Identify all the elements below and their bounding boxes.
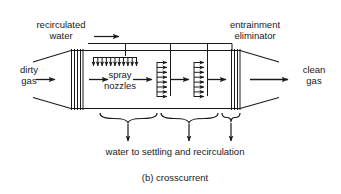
cross-spray-bank-2 <box>194 62 204 97</box>
label-dirty-gas: dirty gas <box>6 64 52 86</box>
brace-3 <box>222 113 240 122</box>
entrainment-eliminator-grid <box>232 49 241 110</box>
label-water-to-settling: water to settling and recirculation <box>50 146 300 157</box>
cross-spray-bank-1 <box>157 62 167 97</box>
drain-arrows <box>128 123 231 141</box>
label-recirculated-water: recirculated water <box>16 19 106 41</box>
label-entrainment-eliminator: entrainment eliminator <box>205 19 305 41</box>
brace-2 <box>161 113 218 124</box>
label-clean-gas: clean gas <box>291 64 337 86</box>
flow-distribution-grid <box>72 49 84 110</box>
spray-nozzle-bank <box>93 58 137 67</box>
figure-caption: (b) crosscurrent <box>50 172 300 183</box>
label-spray-nozzles: spray nozzles <box>94 69 146 91</box>
brace-1 <box>100 113 157 124</box>
collection-braces <box>100 113 240 124</box>
